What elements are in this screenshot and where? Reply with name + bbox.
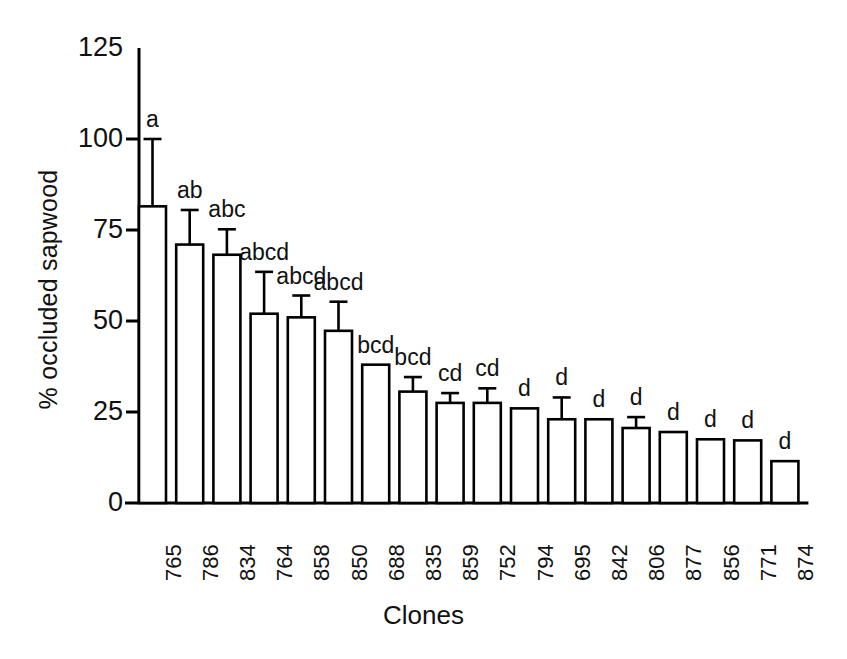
error-bar xyxy=(627,417,645,428)
error-bar xyxy=(292,296,310,318)
bar xyxy=(474,403,501,503)
bar xyxy=(660,432,687,503)
bar xyxy=(251,314,278,503)
bar xyxy=(511,408,538,503)
error-bar xyxy=(553,397,571,419)
bar xyxy=(325,331,352,503)
bar xyxy=(362,365,389,503)
bar xyxy=(399,392,426,503)
bar xyxy=(139,206,166,503)
error-bar xyxy=(181,210,199,245)
bar xyxy=(623,428,650,503)
bar xyxy=(288,317,315,503)
bar xyxy=(734,440,761,503)
error-bar xyxy=(255,272,273,314)
bar xyxy=(585,419,612,503)
error-bar xyxy=(404,377,422,392)
error-bar xyxy=(478,388,496,403)
bar xyxy=(176,245,203,503)
error-bar xyxy=(441,393,459,403)
bar xyxy=(437,403,464,503)
bar xyxy=(771,461,798,503)
error-bar xyxy=(330,302,348,331)
error-bar xyxy=(144,139,162,206)
bar-group xyxy=(139,206,798,503)
figure-bar-chart-occluded-sapwood: % occluded sapwood 0255075100125 aababca… xyxy=(0,0,847,659)
plot-area xyxy=(0,0,847,659)
error-bar xyxy=(218,229,236,254)
bar xyxy=(213,255,240,503)
bar xyxy=(697,439,724,503)
bar xyxy=(548,419,575,503)
